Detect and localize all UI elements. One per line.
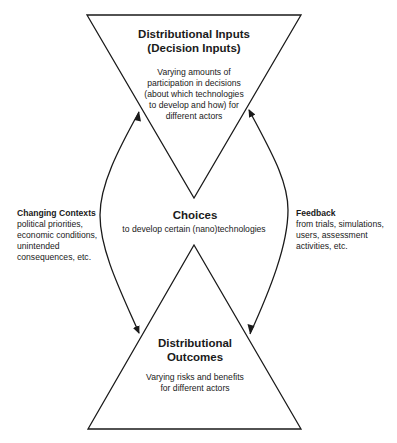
bottom-node-title-line-2: Outcomes [158,350,232,364]
top-node-body-line: participation in decisions [144,78,243,89]
right-label-title: Feedback [296,208,384,219]
left-bidirectional-arrow [100,112,139,333]
left-label-body-line: political priorities, [17,219,97,230]
top-node-title-line-2: (Decision Inputs) [138,41,250,55]
bottom-node-title-line-1: Distributional [158,336,232,350]
right-label-body-line: users, assessment [296,230,384,241]
top-node-body-line: to develop and how) for [144,100,243,111]
left-label-body-line: economic conditions, [17,230,97,241]
bottom-node-body-line: Varying risks and benefits [146,372,244,383]
bottom-node-title: Distributional Outcomes [158,336,232,364]
bottom-node-description: Varying risks and benefits for different… [146,372,244,394]
left-label-changing-contexts: Changing Contexts political priorities, … [17,208,97,263]
center-node-description: to develop certain (nano)technologies [122,224,265,235]
top-node-body-line: (about which technologies [144,89,243,100]
right-label-feedback: Feedback from trials, simulations, users… [296,208,384,252]
top-node-title-line-1: Distributional Inputs [138,27,250,41]
arrowhead-left-top-icon [135,111,142,122]
right-bidirectional-arrow [249,110,288,334]
left-label-title: Changing Contexts [17,208,97,219]
left-label-body-line: unintended [17,241,97,252]
top-node-title: Distributional Inputs (Decision Inputs) [138,27,250,55]
bottom-node-body-line: for different actors [146,383,244,394]
left-label-body-line: consequences, etc. [17,252,97,263]
top-node-body-line: Varying amounts of [144,67,243,78]
top-node-description: Varying amounts of participation in deci… [144,67,243,122]
center-node-title: Choices [173,208,218,222]
right-label-body-line: activities, etc. [296,241,384,252]
top-node-body-line: different actors [144,111,243,122]
right-label-body-line: from trials, simulations, [296,219,384,230]
